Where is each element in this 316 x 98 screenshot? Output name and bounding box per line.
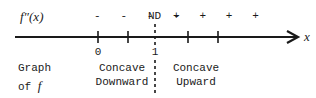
sign-chart-diagram: f″(x) - - - - ND + + + + x 0 1 Graph of … — [0, 0, 316, 98]
tick-label-0: 0 — [95, 46, 102, 59]
interval-left-line2: Downward — [96, 76, 149, 89]
interval-left-line1: Concave — [99, 62, 145, 75]
graph-label-line2: of f — [18, 76, 41, 94]
axis-variable-label: x — [304, 30, 310, 43]
graph-label-function: f — [38, 78, 42, 93]
interval-right-line2: Upward — [176, 76, 216, 89]
negative-signs: - - - - — [94, 10, 180, 23]
second-derivative-label: f″(x) — [20, 10, 43, 23]
interval-right-line1: Concave — [173, 62, 219, 75]
positive-signs: + + + + — [173, 10, 259, 23]
tick-label-1: 1 — [152, 46, 159, 59]
graph-label-prefix: of — [18, 81, 38, 93]
graph-label-line1: Graph — [18, 62, 51, 75]
not-defined-label: ND — [148, 10, 161, 23]
